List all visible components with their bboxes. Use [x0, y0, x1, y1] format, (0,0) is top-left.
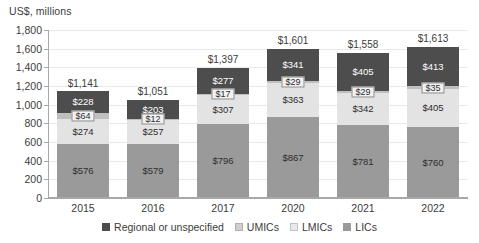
- bar-stack: $228$64$274$576: [57, 91, 109, 198]
- segment-value-label: $12: [141, 114, 164, 125]
- segment-value-label: $342: [352, 104, 373, 114]
- segment-value-label: $579: [142, 166, 163, 176]
- y-tick-label: 1,000: [16, 99, 42, 111]
- bar-stack: $405$29$342$781: [337, 53, 389, 198]
- segment-value-label: $228: [72, 97, 93, 107]
- segment-value-label: $277: [212, 76, 233, 86]
- segment-value-label: $796: [212, 156, 233, 166]
- bar-group-2020[interactable]: $1,601$341$29$363$867: [267, 30, 319, 198]
- stacked-bar-chart: US$, millions 1,8001,6001,4001,2001,0008…: [0, 0, 479, 243]
- bar-segment-lmics[interactable]: $405: [407, 89, 459, 127]
- bar-segment-lmics[interactable]: $363: [267, 83, 319, 117]
- y-tick-label: 1,200: [16, 80, 42, 92]
- bar-group-2015[interactable]: $1,141$228$64$274$576: [57, 30, 109, 198]
- bar-stack: $413$35$405$760: [407, 47, 459, 198]
- bar-total-label: $1,613: [418, 33, 449, 44]
- bar-total-label: $1,601: [278, 35, 309, 46]
- legend-label: UMICs: [247, 221, 279, 233]
- x-axis-labels: 201520162017202020212022: [48, 200, 468, 216]
- bar-total-label: $1,141: [68, 78, 99, 89]
- y-tick-label: 400: [24, 155, 42, 167]
- segment-value-label: $781: [352, 157, 373, 167]
- segment-value-label: $203: [142, 105, 163, 115]
- bar-segment-lics[interactable]: $867: [267, 117, 319, 198]
- legend-label: LMICs: [302, 221, 332, 233]
- bar-segment-lmics[interactable]: $342: [337, 93, 389, 125]
- segment-value-label: $363: [282, 95, 303, 105]
- segment-value-label: $413: [422, 62, 443, 72]
- plot-area: 1,8001,6001,4001,2001,0008006004002000 $…: [48, 30, 468, 198]
- segment-value-label: $341: [282, 60, 303, 70]
- legend-label: LICs: [355, 221, 377, 233]
- bar-segment-lmics[interactable]: $274: [57, 119, 109, 145]
- x-axis-line: [48, 197, 468, 198]
- segment-value-label: $867: [282, 153, 303, 163]
- bar-segment-regional-or-unspecified[interactable]: $405: [337, 53, 389, 91]
- bar-group-2022[interactable]: $1,613$413$35$405$760: [407, 30, 459, 198]
- y-tick-label: 600: [24, 136, 42, 148]
- legend-swatch-icon: [290, 223, 298, 231]
- legend-item-lics[interactable]: LICs: [343, 221, 377, 233]
- bar-segment-lics[interactable]: $579: [127, 144, 179, 198]
- segment-value-label: $29: [281, 76, 304, 87]
- bar-group-2021[interactable]: $1,558$405$29$342$781: [337, 30, 389, 198]
- segment-value-label: $405: [422, 103, 443, 113]
- bar-total-label: $1,558: [348, 39, 379, 50]
- y-tick-label: 1,800: [16, 24, 42, 36]
- bar-segment-lics[interactable]: $576: [57, 144, 109, 198]
- legend-swatch-icon: [102, 223, 110, 231]
- bar-segment-lics[interactable]: $781: [337, 125, 389, 198]
- y-axis-title: US$, millions: [9, 5, 72, 17]
- segment-value-label: $64: [71, 110, 94, 121]
- bar-segment-lics[interactable]: $796: [197, 124, 249, 198]
- x-tick-label-2016: 2016: [127, 202, 179, 214]
- x-tick-label-2015: 2015: [57, 202, 109, 214]
- bar-group-2017[interactable]: $1,397$277$17$307$796: [197, 30, 249, 198]
- y-tick-label: 800: [24, 117, 42, 129]
- chart-legend: Regional or unspecifiedUMICsLMICsLICs: [0, 221, 479, 233]
- segment-value-label: $35: [421, 82, 444, 93]
- x-tick-label-2017: 2017: [197, 202, 249, 214]
- x-tick-label-2020: 2020: [267, 202, 319, 214]
- bars-container: $1,141$228$64$274$576$1,051$203$12$257$5…: [48, 30, 468, 198]
- y-axis-line: [48, 30, 49, 198]
- bar-stack: $203$12$257$579: [127, 100, 179, 198]
- bar-segment-lics[interactable]: $760: [407, 127, 459, 198]
- legend-item-regional-or-unspecified[interactable]: Regional or unspecified: [102, 221, 224, 233]
- bar-segment-regional-or-unspecified[interactable]: $413: [407, 47, 459, 86]
- y-tick-label: 0: [36, 192, 42, 204]
- x-tick-label-2022: 2022: [407, 202, 459, 214]
- segment-value-label: $17: [211, 89, 234, 100]
- segment-value-label: $405: [352, 67, 373, 77]
- legend-item-umics[interactable]: UMICs: [235, 221, 279, 233]
- y-tick-label: 200: [24, 173, 42, 185]
- legend-swatch-icon: [235, 223, 243, 231]
- segment-value-label: $576: [72, 166, 93, 176]
- segment-value-label: $29: [351, 86, 374, 97]
- bar-stack: $277$17$307$796: [197, 68, 249, 198]
- legend-swatch-icon: [343, 223, 351, 231]
- bar-stack: $341$29$363$867: [267, 49, 319, 198]
- segment-value-label: $307: [212, 105, 233, 115]
- bar-group-2016[interactable]: $1,051$203$12$257$579: [127, 30, 179, 198]
- x-tick-label-2021: 2021: [337, 202, 389, 214]
- bar-total-label: $1,397: [208, 54, 239, 65]
- bar-total-label: $1,051: [138, 86, 169, 97]
- segment-value-label: $257: [142, 127, 163, 137]
- segment-value-label: $760: [422, 158, 443, 168]
- y-tick-label: 1,400: [16, 61, 42, 73]
- gridline: [48, 198, 468, 199]
- y-tick-label: 1,600: [16, 43, 42, 55]
- legend-item-lmics[interactable]: LMICs: [290, 221, 332, 233]
- y-tick-mark: [44, 198, 48, 199]
- segment-value-label: $274: [72, 127, 93, 137]
- legend-label: Regional or unspecified: [114, 221, 224, 233]
